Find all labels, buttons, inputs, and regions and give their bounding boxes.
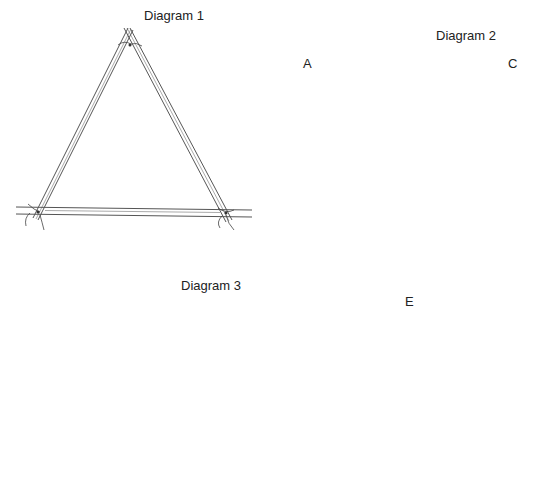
stick-right	[124, 28, 232, 222]
diagram-1-triangle	[16, 28, 252, 230]
diagram-1-title: Diagram 1	[144, 8, 204, 23]
point-label-c: C	[508, 56, 517, 71]
point-label-e: E	[405, 294, 414, 309]
point-label-a: A	[303, 56, 312, 71]
stick-bottom	[16, 207, 252, 217]
diagram-2-title: Diagram 2	[436, 28, 496, 43]
stick-left	[33, 28, 133, 220]
diagram-3-title: Diagram 3	[181, 278, 241, 293]
diagram-canvas	[0, 0, 552, 484]
